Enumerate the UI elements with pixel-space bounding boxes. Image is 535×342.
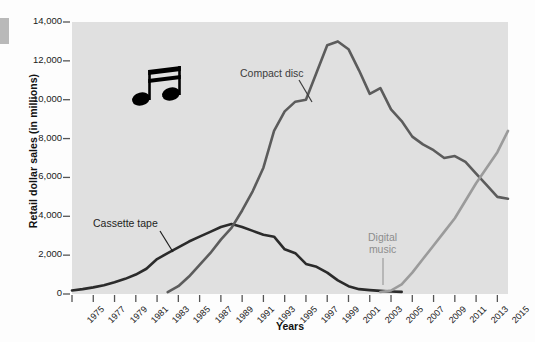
x-axis-title: Years xyxy=(72,320,508,332)
series-line-digital-music xyxy=(380,131,508,292)
x-axis-tick-marks xyxy=(72,295,497,302)
chart-canvas xyxy=(0,0,535,342)
y-tick-label: 0 xyxy=(10,287,62,298)
digital-music-label: Digital music xyxy=(368,232,397,256)
chart-figure: 14,00012,00010,0008,0006,0004,0002,0000 … xyxy=(0,0,535,342)
series-line-cassette-tape xyxy=(72,224,402,292)
y-axis-tick-marks xyxy=(63,22,70,294)
compact-disc-label: Compact disc xyxy=(240,68,304,80)
cassette-tape-label: Cassette tape xyxy=(93,218,158,230)
cassette-tape-leader-line xyxy=(160,231,173,252)
y-axis-title: Retail dollar sales (in millions) xyxy=(27,26,39,276)
digital-music-label-line2: music xyxy=(369,243,396,255)
y-tick-label: 14,000 xyxy=(10,15,62,26)
digital-music-label-line1: Digital xyxy=(368,231,397,243)
music-note-icon xyxy=(131,66,182,107)
series-line-compact-disc xyxy=(168,41,508,292)
annotation-leader-lines xyxy=(160,80,383,285)
